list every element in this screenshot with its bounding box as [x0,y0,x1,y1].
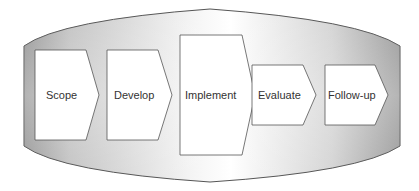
step-develop[interactable]: Develop [107,50,172,140]
step-label: Follow-up [328,89,376,101]
process-diagram: Scope Develop Implement Evaluate Follow-… [0,0,419,191]
step-label: Implement [185,89,236,101]
step-follow-up[interactable]: Follow-up [325,65,388,125]
step-label: Develop [114,89,154,101]
step-scope[interactable]: Scope [35,50,99,140]
step-label: Evaluate [258,89,301,101]
step-label: Scope [46,89,77,101]
step-evaluate[interactable]: Evaluate [252,65,316,125]
step-implement[interactable]: Implement [180,35,255,155]
